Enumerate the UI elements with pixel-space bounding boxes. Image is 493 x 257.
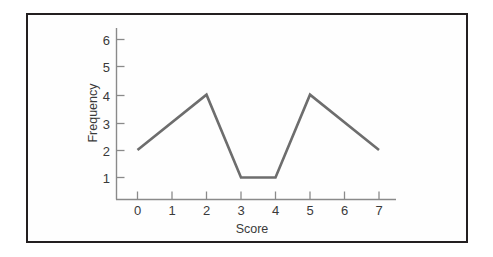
y-axis-group: 6 5 4 3 2 1 Frequency <box>86 28 125 200</box>
x-tick-label-0: 0 <box>134 203 141 218</box>
y-tick-label-6: 6 <box>103 33 110 48</box>
y-tick-label-5: 5 <box>103 60 110 75</box>
x-axis-tick-labels: 0 1 2 3 4 5 6 7 <box>134 203 383 218</box>
x-axis-title: Score <box>236 222 269 236</box>
y-tick-label-4: 4 <box>103 89 110 104</box>
y-tick-label-2: 2 <box>103 144 110 159</box>
x-tick-label-2: 2 <box>203 203 210 218</box>
x-axis-ticks <box>138 192 380 200</box>
x-tick-label-7: 7 <box>375 203 382 218</box>
y-tick-label-3: 3 <box>103 117 110 132</box>
x-tick-label-5: 5 <box>306 203 313 218</box>
x-axis-group: 0 1 2 3 4 5 6 7 Score <box>116 192 396 237</box>
x-tick-label-1: 1 <box>168 203 175 218</box>
x-tick-label-6: 6 <box>341 203 348 218</box>
y-axis-ticks <box>117 40 125 178</box>
frequency-polygon-line <box>138 95 380 178</box>
frequency-polygon-chart: 6 5 4 3 2 1 Frequency <box>0 0 493 257</box>
y-tick-label-1: 1 <box>103 171 110 186</box>
figure-canvas: 6 5 4 3 2 1 Frequency <box>0 0 493 257</box>
y-axis-title: Frequency <box>86 83 100 143</box>
x-tick-label-3: 3 <box>237 203 244 218</box>
y-axis-tick-labels: 6 5 4 3 2 1 <box>103 33 110 186</box>
x-tick-label-4: 4 <box>272 203 279 218</box>
